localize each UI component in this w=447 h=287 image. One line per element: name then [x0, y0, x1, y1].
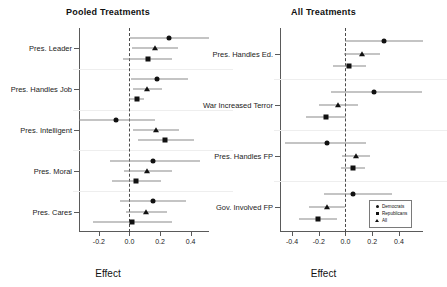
- y-axis-tick: [275, 105, 280, 106]
- point-estimate-marker-circle: [167, 36, 172, 41]
- y-axis-category-label: Pres. Moral: [34, 166, 72, 175]
- point-estimate-marker-circle: [113, 117, 118, 122]
- x-axis-line-right: [280, 231, 423, 232]
- legend-item: All: [373, 218, 407, 225]
- circle-marker-icon: [373, 205, 381, 208]
- panel-title-left: Pooled Treatments: [0, 7, 216, 17]
- point-estimate-marker-square: [133, 179, 138, 184]
- panel-all-treatments: All Treatments Effect DemocratsRepublica…: [216, 0, 431, 287]
- y-axis-tick: [275, 156, 280, 157]
- x-axis-tick-label: 0.4: [394, 238, 404, 245]
- plot-area-left: [79, 28, 209, 232]
- legend-item-label: All: [382, 218, 387, 223]
- x-axis-tick: [99, 232, 100, 236]
- legend-item: Republicans: [373, 211, 407, 218]
- y-axis-line-left: [79, 28, 80, 232]
- x-axis-tick-label: -0.2: [313, 238, 325, 245]
- x-axis-tick: [191, 232, 192, 236]
- x-axis-tick: [372, 232, 373, 236]
- y-axis-tick: [74, 89, 79, 90]
- y-axis-tick: [74, 130, 79, 131]
- x-axis-tick-label: 0.2: [367, 238, 377, 245]
- category-separator: [274, 79, 447, 80]
- point-estimate-marker-circle: [372, 89, 377, 94]
- y-axis-category-label: Pres. Leader: [29, 44, 72, 53]
- confidence-interval-bar: [131, 79, 188, 80]
- point-estimate-marker-triangle: [335, 102, 341, 107]
- point-estimate-marker-circle: [350, 191, 355, 196]
- y-axis-tick: [74, 212, 79, 213]
- x-axis-tick: [399, 232, 400, 236]
- square-marker-icon: [373, 212, 381, 215]
- point-estimate-marker-circle: [155, 77, 160, 82]
- point-estimate-marker-triangle: [153, 127, 159, 132]
- legend-item-label: Democrats: [382, 204, 404, 209]
- confidence-interval-bar: [324, 193, 392, 194]
- y-axis-tick: [74, 171, 79, 172]
- legend-item: Democrats: [373, 204, 407, 211]
- point-estimate-marker-circle: [151, 199, 156, 204]
- category-separator: [274, 130, 447, 131]
- x-axis-tick-label: -0.2: [93, 238, 105, 245]
- x-axis-tick-label: 0.0: [125, 238, 135, 245]
- x-axis-tick: [160, 232, 161, 236]
- point-estimate-marker-circle: [325, 140, 330, 145]
- point-estimate-marker-square: [316, 217, 321, 222]
- y-axis-tick: [74, 48, 79, 49]
- x-axis-title-right: Effect: [216, 268, 431, 279]
- point-estimate-marker-triangle: [143, 209, 149, 214]
- category-separator: [73, 110, 233, 111]
- x-axis-title-left: Effect: [0, 268, 216, 279]
- x-axis-tick: [292, 232, 293, 236]
- x-axis-tick-label: 0.0: [341, 238, 351, 245]
- point-estimate-marker-circle: [151, 158, 156, 163]
- point-estimate-marker-triangle: [144, 168, 150, 173]
- x-axis-tick: [319, 232, 320, 236]
- y-axis-tick: [275, 54, 280, 55]
- y-axis-category-label: Gov. Involved FP: [216, 202, 273, 211]
- y-axis-category-label: War Increased Terror: [203, 100, 273, 109]
- y-axis-category-label: Pres. Handles FP: [214, 151, 273, 160]
- category-separator: [73, 191, 233, 192]
- point-estimate-marker-triangle: [144, 86, 150, 91]
- x-axis-tick: [129, 232, 130, 236]
- legend: DemocratsRepublicansAll: [369, 200, 412, 228]
- panel-title-right: All Treatments: [216, 7, 431, 17]
- point-estimate-marker-square: [135, 97, 140, 102]
- point-estimate-marker-square: [129, 219, 134, 224]
- x-axis-tick: [345, 232, 346, 236]
- point-estimate-marker-square: [145, 56, 150, 61]
- point-estimate-marker-circle: [381, 38, 386, 43]
- panel-pooled-treatments: Pooled Treatments Effect Pres. LeaderPre…: [0, 0, 216, 287]
- x-axis-tick-label: -0.4: [286, 238, 298, 245]
- category-separator: [73, 150, 233, 151]
- legend-item-label: Republicans: [382, 211, 407, 216]
- y-axis-category-label: Pres. Cares: [32, 207, 72, 216]
- point-estimate-marker-triangle: [353, 153, 359, 158]
- x-axis-tick-label: 0.2: [155, 238, 165, 245]
- point-estimate-marker-square: [324, 115, 329, 120]
- y-axis-tick: [275, 207, 280, 208]
- point-estimate-marker-triangle: [152, 46, 158, 51]
- point-estimate-marker-triangle: [359, 51, 365, 56]
- triangle-marker-icon: [373, 219, 381, 222]
- point-estimate-marker-square: [163, 138, 168, 143]
- point-estimate-marker-square: [350, 166, 355, 171]
- category-separator: [73, 69, 233, 70]
- category-separator: [274, 181, 447, 182]
- x-axis-tick-label: 0.4: [186, 238, 196, 245]
- y-axis-category-label: Pres. Handles Job: [11, 85, 72, 94]
- zero-reference-line: [345, 28, 346, 232]
- point-estimate-marker-triangle: [324, 204, 330, 209]
- y-axis-category-label: Pres. Handles Ed.: [213, 49, 273, 58]
- y-axis-category-label: Pres. Intelligent: [20, 126, 72, 135]
- point-estimate-marker-square: [347, 64, 352, 69]
